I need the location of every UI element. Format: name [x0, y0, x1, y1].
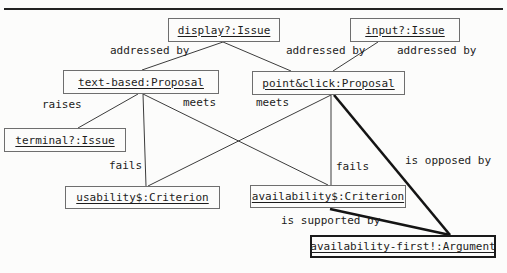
node-text-based-proposal: text-based:Proposal	[63, 70, 219, 94]
node-terminal-issue-label: terminal?:Issue	[15, 134, 114, 147]
node-availability-first-argument-label: availability-first!:Argument	[310, 240, 495, 253]
node-text-based-proposal-label: text-based:Proposal	[78, 76, 204, 89]
edge-label-raises: raises	[42, 99, 82, 111]
node-display-issue: display?:Issue	[168, 18, 280, 42]
node-terminal-issue: terminal?:Issue	[4, 128, 126, 152]
edge-pointclick-to-usability	[148, 95, 331, 186]
edge-textbased-to-terminal	[78, 94, 138, 128]
edge-label-is-opposed-by: is opposed by	[405, 155, 491, 167]
node-availability-criterion-label: availability$:Criterion	[252, 190, 404, 203]
edge-label-addressed-by-left: addressed by	[110, 45, 189, 57]
edge-label-meets-left: meets	[183, 97, 216, 109]
node-display-issue-label: display?:Issue	[178, 24, 271, 37]
node-availability-first-argument: availability-first!:Argument	[310, 235, 496, 258]
node-point-click-proposal-label: point&click:Proposal	[262, 77, 394, 90]
diagram-canvas: display?:Issue input?:Issue text-based:P…	[0, 0, 507, 273]
node-availability-criterion: availability$:Criterion	[250, 185, 406, 208]
node-point-click-proposal: point&click:Proposal	[252, 71, 405, 95]
edge-label-fails-left: fails	[109, 160, 142, 172]
edge-display-to-pointclick	[223, 42, 291, 71]
node-usability-criterion-label: usability$:Criterion	[76, 191, 208, 204]
edge-textbased-to-availability	[143, 94, 328, 185]
edge-label-addressed-by-middle: addressed by	[286, 45, 365, 57]
node-input-issue-label: input?:Issue	[365, 24, 444, 37]
edge-label-meets-right: meets	[256, 97, 289, 109]
edge-label-is-supported-by: is supported by	[281, 215, 380, 227]
edge-label-addressed-by-right: addressed by	[397, 45, 476, 57]
node-input-issue: input?:Issue	[350, 18, 460, 42]
edge-label-fails-right: fails	[336, 161, 369, 173]
edge-textbased-to-usability	[143, 94, 146, 186]
node-usability-criterion: usability$:Criterion	[65, 186, 220, 209]
